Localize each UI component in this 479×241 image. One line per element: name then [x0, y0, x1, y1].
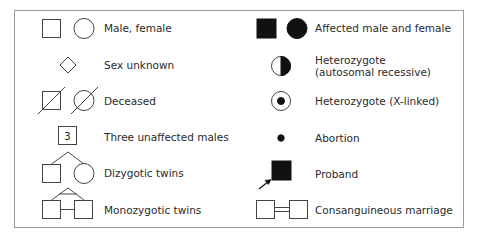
male-square-icon — [43, 20, 61, 38]
heterozygote-autosomal-icon — [272, 57, 291, 76]
label-three-unaffected-males: Three unaffected males — [104, 131, 229, 143]
label-male-female: Male, female — [104, 22, 172, 34]
deceased-female-icon — [71, 87, 98, 114]
proband-arrow-icon — [259, 180, 271, 190]
label-heterozygote-xlinked: Heterozygote (X-linked) — [315, 95, 439, 107]
sex-unknown-diamond-icon — [60, 57, 76, 73]
label-deceased: Deceased — [104, 95, 156, 107]
label-abortion: Abortion — [315, 132, 360, 144]
three-males-count: 3 — [64, 131, 70, 142]
label-heterozygote-ar-line1: Heterozygote — [315, 54, 386, 66]
dizygotic-twins-icon — [43, 152, 95, 184]
abortion-dot-icon — [278, 135, 284, 141]
affected-female-icon — [287, 19, 307, 39]
label-consanguineous-marriage: Consanguineous marriage — [315, 204, 453, 216]
label-affected: Affected male and female — [315, 22, 451, 34]
label-sex-unknown: Sex unknown — [104, 59, 174, 71]
label-proband: Proband — [315, 168, 358, 180]
label-dizygotic-twins: Dizygotic twins — [104, 167, 184, 179]
female-circle-icon — [74, 19, 94, 39]
consanguineous-marriage-icon — [257, 201, 308, 219]
affected-male-icon — [257, 19, 276, 38]
deceased-male-icon — [38, 87, 65, 114]
proband-icon — [272, 161, 291, 180]
label-monozygotic-twins: Monozygotic twins — [104, 204, 201, 216]
heterozygote-xlinked-icon — [272, 92, 291, 111]
label-heterozygote-ar-line2: (autosomal recessive) — [315, 66, 431, 78]
monozygotic-twins-icon — [43, 188, 93, 219]
